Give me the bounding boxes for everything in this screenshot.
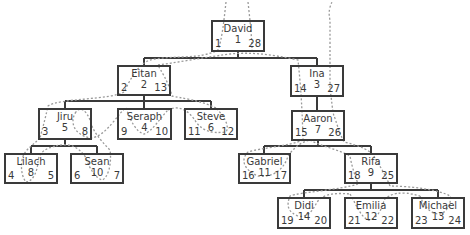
node-ina: Ina 3 14 27 (290, 65, 344, 97)
node-left-index: 3 (42, 126, 48, 138)
node-right-index: 7 (114, 170, 120, 182)
node-right-index: 28 (248, 38, 261, 50)
node-left-index: 11 (188, 126, 201, 138)
node-left-index: 2 (121, 82, 127, 94)
node-sean: Sean 10 6 7 (70, 153, 124, 184)
node-right-index: 26 (328, 127, 341, 139)
node-right-index: 27 (327, 83, 340, 95)
node-left-index: 6 (74, 170, 80, 182)
node-eitan: Eitan 2 2 13 (117, 65, 171, 96)
node-left-index: 15 (295, 127, 308, 139)
node-right-index: 10 (155, 126, 168, 138)
node-seraph: Seraph 4 9 10 (117, 108, 172, 140)
node-right-index: 12 (221, 126, 234, 138)
node-left-index: 4 (8, 170, 14, 182)
node-left-index: 16 (242, 170, 255, 182)
node-david: David 1 1 28 (211, 20, 265, 52)
node-left-index: 14 (294, 83, 307, 95)
node-right-index: 5 (48, 170, 54, 182)
node-aaron: Aaron 7 15 26 (291, 110, 345, 141)
node-right-index: 13 (154, 82, 167, 94)
node-left-index: 1 (215, 38, 221, 50)
node-lilach: Lilach 8 4 5 (4, 153, 58, 184)
node-right-index: 24 (448, 215, 461, 227)
node-jiru: Jiru 5 3 8 (38, 108, 92, 140)
node-left-index: 9 (121, 126, 127, 138)
node-michael: Michael 13 23 24 (411, 197, 465, 229)
node-right-index: 20 (314, 215, 327, 227)
node-right-index: 17 (274, 170, 287, 182)
node-rifa: Rifa 9 18 25 (344, 153, 398, 184)
node-right-index: 25 (381, 170, 394, 182)
node-right-index: 22 (381, 215, 394, 227)
node-steve: Steve 6 11 12 (184, 108, 238, 140)
node-left-index: 21 (348, 215, 361, 227)
node-left-index: 19 (281, 215, 294, 227)
node-emilia: Emilia 12 21 22 (344, 197, 398, 229)
node-left-index: 18 (348, 170, 361, 182)
node-gabriel: Gabriel 11 16 17 (238, 153, 291, 184)
node-right-index: 8 (82, 126, 88, 138)
node-left-index: 23 (415, 215, 428, 227)
node-didi: Didi 14 19 20 (277, 197, 331, 229)
